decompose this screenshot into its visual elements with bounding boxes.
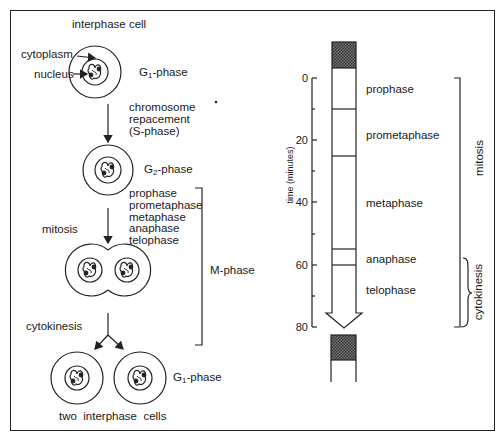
title-interphase-cell: interphase cell <box>72 18 146 31</box>
tick-60: 60 <box>286 259 308 272</box>
phase-column-arrow <box>326 68 362 328</box>
mitosis-bracket <box>454 78 460 327</box>
label-g1-phase-bottom: G1-phase <box>173 371 222 387</box>
axis-label-time: time (minutes) <box>285 137 295 213</box>
interphase-cell-g1 <box>69 46 121 98</box>
label-cytokinesis-left: cytokinesis <box>26 320 82 333</box>
time-axis <box>312 78 317 327</box>
stage-telophase: telophase <box>129 234 179 247</box>
phase-anaphase: anaphase <box>366 253 417 266</box>
label-g1-phase-top: G1-phase <box>139 66 188 82</box>
stray-dot <box>215 101 218 104</box>
interphase-cell-g2 <box>83 145 133 195</box>
cytokinesis-brace <box>461 258 472 327</box>
tick-80: 80 <box>286 321 308 334</box>
label-mitosis-right: mitosis <box>473 133 485 183</box>
label-g2-phase: G2-phase <box>144 163 193 179</box>
cell-cycle-diagram <box>0 0 504 440</box>
dividing-cell <box>65 244 150 296</box>
hatched-block-bottom <box>331 335 356 360</box>
hatched-block-top <box>332 42 356 68</box>
cytoplasm-pointer <box>77 56 95 58</box>
phase-prometaphase: prometaphase <box>366 129 440 142</box>
label-cytoplasm: cytoplasm <box>21 48 73 61</box>
label-m-phase: M-phase <box>210 264 255 277</box>
label-mitosis-left: mitosis <box>42 223 78 236</box>
cytokinesis-arrows <box>95 313 123 349</box>
caption-two-interphase-cells: two interphase cells <box>59 410 166 423</box>
label-nucleus: nucleus <box>34 68 74 81</box>
phase-metaphase: metaphase <box>366 197 423 210</box>
phase-telophase: telophase <box>366 284 416 297</box>
phase-prophase: prophase <box>366 83 414 96</box>
label-cytokinesis-right: cytokinesis <box>472 260 484 324</box>
daughter-cell-left <box>51 352 103 404</box>
label-s-phase-3: (S-phase) <box>129 125 180 138</box>
tick-0: 0 <box>286 72 308 85</box>
daughter-cell-right <box>114 352 166 404</box>
